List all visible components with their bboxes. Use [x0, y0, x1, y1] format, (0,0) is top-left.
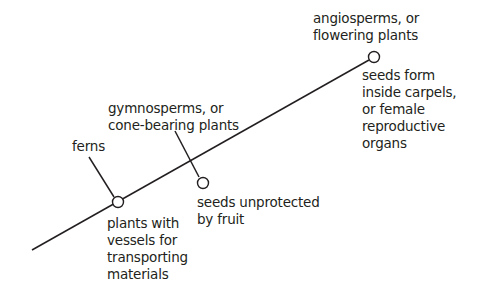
ferns-trait-label: plants with vessels for transporting mat…: [107, 215, 188, 283]
gymnosperms-trait-label: seeds unprotected by fruit: [197, 194, 320, 228]
ferns-branch-line: [89, 157, 114, 197]
gymnosperms-branch-line: [175, 131, 199, 177]
angiosperms-node: [369, 52, 380, 63]
angiosperms-group-label: angiosperms, or flowering plants: [313, 10, 419, 44]
angiosperms-trait-label: seeds form inside carpels, or female rep…: [362, 67, 456, 152]
gymnosperms-node: [198, 178, 209, 189]
cladogram: ferns plants with vessels for transporti…: [0, 0, 477, 300]
gymnosperms-group-label: gymnosperms, or cone-bearing plants: [108, 100, 239, 134]
ferns-node: [113, 197, 124, 208]
ferns-group-label: ferns: [72, 138, 105, 155]
